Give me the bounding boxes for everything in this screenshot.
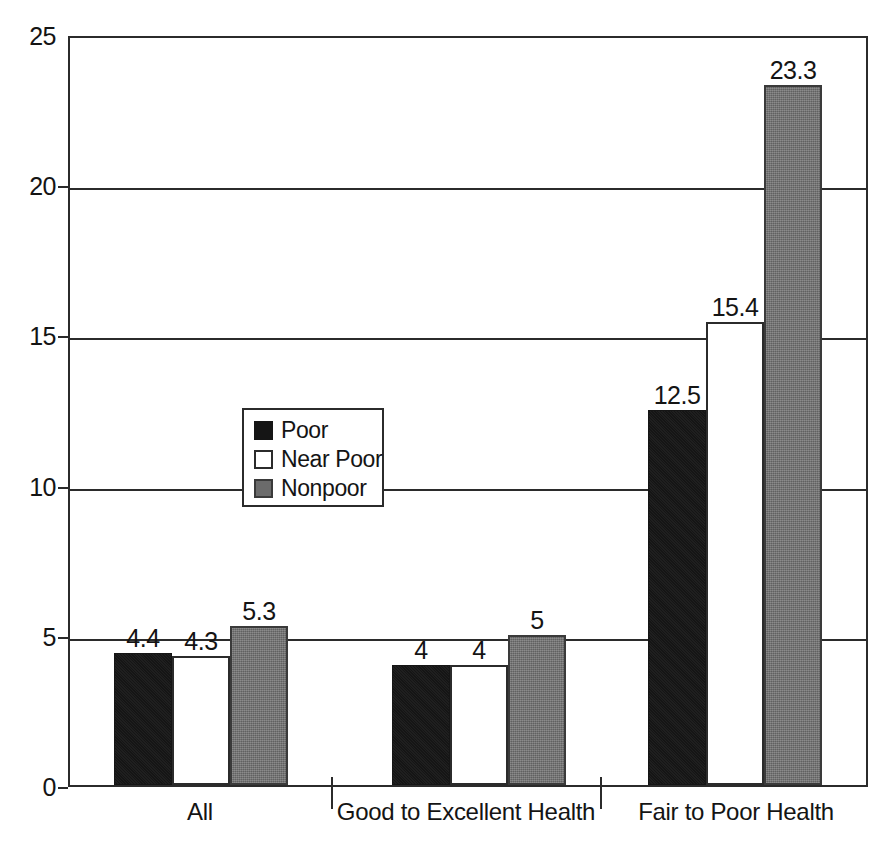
bar-value-label: 23.3 xyxy=(770,56,817,85)
category-separator-tick xyxy=(600,777,602,809)
legend-item-label: Poor xyxy=(281,417,328,444)
bar-value-label: 12.5 xyxy=(654,381,701,410)
bar-value-label: 5.3 xyxy=(242,597,275,626)
chart-page: 0510152025 4.44.35.344512.515.423.3 Poor… xyxy=(0,0,893,852)
legend-item: Near Poor xyxy=(254,445,382,474)
bar xyxy=(450,665,508,785)
bar xyxy=(172,656,230,785)
white-square-swatch xyxy=(254,450,273,469)
bar xyxy=(114,653,172,785)
legend-item: Nonpoor xyxy=(254,474,382,503)
bar-value-label: 4 xyxy=(414,636,427,665)
legend-item-label: Nonpoor xyxy=(281,475,366,502)
y-axis-tick-mark xyxy=(58,787,68,789)
y-axis-tick-mark xyxy=(58,186,68,188)
y-axis-tick-mark xyxy=(58,487,68,489)
legend-item-label: Near Poor xyxy=(281,446,382,473)
bar-value-label: 15.4 xyxy=(712,293,759,322)
bar xyxy=(508,635,566,785)
bar xyxy=(764,85,822,785)
bar xyxy=(648,410,706,786)
bar-value-label: 4 xyxy=(472,636,485,665)
y-axis-tick-mark xyxy=(58,336,68,338)
plot-area: 4.44.35.344512.515.423.3 PoorNear PoorNo… xyxy=(68,36,868,787)
y-axis-tick-mark xyxy=(58,637,68,639)
bar xyxy=(392,665,450,785)
bar xyxy=(230,626,288,785)
gridline xyxy=(70,188,866,190)
bar-value-label: 4.4 xyxy=(126,624,159,653)
category-label: Good to Excellent Health xyxy=(337,798,595,826)
bar-value-label: 5 xyxy=(530,606,543,635)
gray-square-swatch xyxy=(254,479,273,498)
category-label: All xyxy=(187,798,213,826)
bar-value-label: 4.3 xyxy=(184,627,217,656)
legend-item: Poor xyxy=(254,416,382,445)
bar xyxy=(706,322,764,785)
y-axis-tick-marks xyxy=(0,36,68,787)
category-label: Fair to Poor Health xyxy=(638,798,834,826)
category-separator-tick xyxy=(331,777,333,809)
black-square-swatch xyxy=(254,421,273,440)
chart-legend: PoorNear PoorNonpoor xyxy=(242,408,384,507)
